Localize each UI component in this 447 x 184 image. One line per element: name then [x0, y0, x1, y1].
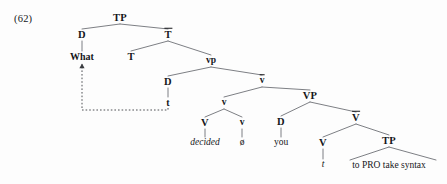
tree-branches-canvas [0, 0, 447, 184]
node-label-text: D [78, 29, 86, 40]
tree-node-vlittle: v [222, 98, 227, 108]
triangle-left-edge [350, 147, 389, 160]
tree-node-d2: D [164, 77, 172, 88]
node-label-text: D [164, 76, 172, 87]
tree-node-v2: v [240, 118, 245, 128]
node-label-text: TP [113, 12, 127, 23]
branch-lines [82, 24, 389, 159]
node-label-text: What [70, 51, 94, 62]
tree-node-embedded: to PRO take syntax [352, 161, 426, 171]
branch-vbar-to-vlittle [224, 87, 262, 97]
triangle-abbreviations [350, 147, 436, 160]
tree-node-vp: VP [303, 91, 317, 102]
node-label-text: you [274, 137, 288, 147]
node-label-text: decided [190, 137, 220, 147]
movement-arrow [79, 64, 168, 111]
tree-node-vbar: v [260, 76, 265, 86]
branch-tp-to-tbar [120, 24, 168, 29]
node-label-text: TP [382, 135, 396, 146]
branch-vlittle-to-v2 [224, 109, 242, 117]
triangle-right-edge [389, 147, 436, 160]
node-label-text: v [222, 97, 227, 107]
node-label-text: D [277, 116, 285, 127]
node-label-text: V [352, 113, 360, 124]
tree-node-tp2: TP [382, 136, 396, 147]
movement-dashed-path [82, 64, 168, 110]
tree-node-v2: V [319, 138, 327, 149]
node-label-text: v [240, 117, 245, 127]
node-label-text: ø [240, 137, 245, 147]
node-label-text: vp [206, 55, 216, 65]
node-label-text: to PRO take syntax [352, 160, 426, 170]
node-label-text: V [319, 137, 327, 148]
tree-node-tp: TP [113, 13, 127, 24]
tree-node-t2: t [322, 160, 325, 170]
branch-vp-to-d2 [168, 67, 211, 76]
node-label-text: t [166, 97, 169, 108]
branch-vbar-to-tp2 [356, 124, 389, 135]
tree-node-t: T [127, 52, 134, 63]
tree-node-what: What [70, 52, 94, 62]
tree-node-you: you [274, 138, 288, 148]
branch-vp-to-vbar [310, 102, 356, 112]
tree-node-vp: vp [206, 56, 216, 66]
node-label-text: VP [303, 90, 317, 101]
node-label-text: T [164, 30, 171, 41]
branch-tbar-to-vp [168, 41, 211, 55]
node-label-text: T [127, 51, 134, 62]
branch-vp-to-d3 [281, 102, 310, 116]
tree-node-v1: V [201, 118, 209, 129]
node-label-text: v [260, 76, 265, 86]
node-label-text: V [201, 117, 209, 128]
tree-node-t1: t [166, 98, 169, 108]
movement-arrowhead-icon [79, 64, 84, 69]
branch-tbar-to-t [131, 41, 168, 51]
node-label-text: t [322, 159, 325, 169]
syntax-tree-figure: (62) TPDTWhatTvpDvtvVPVvDVdecidedøyouVTP… [0, 0, 447, 184]
tree-node-null: ø [240, 138, 245, 148]
tree-node-decided: decided [190, 138, 220, 148]
branch-vp-to-vbar [211, 67, 262, 75]
branch-tp-to-d1 [82, 24, 120, 29]
tree-node-tbar: T [164, 30, 171, 41]
tree-node-d1: D [78, 30, 86, 41]
tree-node-d3: D [277, 117, 285, 128]
tree-node-vbar: V [352, 113, 360, 124]
branch-vbar-to-v2 [323, 124, 356, 137]
